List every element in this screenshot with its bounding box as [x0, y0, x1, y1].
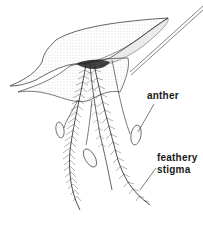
grass-floret-illustration — [0, 0, 203, 228]
feathery-stigma-label-line2: stigma — [157, 164, 190, 175]
stigma-leader-line — [140, 168, 156, 190]
leader-lines — [138, 104, 156, 190]
anther-leader-line — [138, 104, 154, 132]
anther-label: anther — [147, 90, 179, 101]
feathery-stigma-label-line1: feathery — [157, 152, 198, 163]
